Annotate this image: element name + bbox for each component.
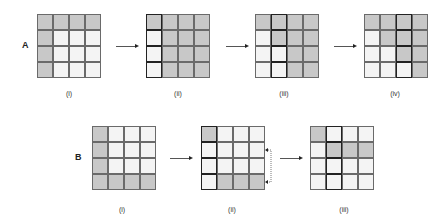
matrix-cell — [358, 142, 374, 158]
matrix-cell — [124, 158, 140, 174]
matrix-cell — [233, 174, 249, 190]
arrow-right-icon — [226, 46, 247, 47]
matrix-cell — [140, 142, 156, 158]
matrix-cell — [310, 142, 326, 158]
matrix-cell — [271, 62, 287, 78]
matrix-cell — [69, 62, 85, 78]
arrow-right-icon — [280, 158, 301, 159]
matrix-cell — [201, 142, 217, 158]
matrix-cell — [146, 46, 162, 62]
matrix-cell — [326, 174, 342, 190]
matrix-cell — [217, 142, 233, 158]
panel-caption: (iii) — [279, 90, 288, 97]
matrix-cell — [271, 14, 287, 30]
matrix-cell — [364, 30, 380, 46]
matrix-cell — [92, 126, 108, 142]
matrix-cell — [162, 46, 178, 62]
matrix-cell — [178, 14, 194, 30]
matrix-panel — [364, 14, 428, 78]
matrix-cell — [249, 126, 265, 142]
matrix-cell — [201, 158, 217, 174]
matrix-cell — [396, 46, 412, 62]
arrow-right-icon — [170, 158, 191, 159]
matrix-cell — [326, 158, 342, 174]
matrix-cell — [412, 30, 428, 46]
matrix-cell — [108, 158, 124, 174]
matrix-cell — [310, 126, 326, 142]
matrix-cell — [37, 30, 53, 46]
matrix-cell — [342, 126, 358, 142]
matrix-cell — [217, 158, 233, 174]
matrix-cell — [255, 14, 271, 30]
matrix-cell — [364, 14, 380, 30]
matrix-cell — [53, 14, 69, 30]
matrix-cell — [194, 62, 210, 78]
matrix-cell — [53, 46, 69, 62]
matrix-cell — [255, 62, 271, 78]
matrix-cell — [146, 30, 162, 46]
matrix-cell — [69, 30, 85, 46]
matrix-panel — [310, 126, 374, 190]
matrix-cell — [342, 142, 358, 158]
matrix-cell — [85, 14, 101, 30]
matrix-panel — [92, 126, 156, 190]
matrix-cell — [201, 174, 217, 190]
matrix-cell — [303, 14, 319, 30]
matrix-cell — [287, 46, 303, 62]
matrix-cell — [249, 158, 265, 174]
matrix-cell — [249, 142, 265, 158]
panel-caption: (iii) — [339, 206, 348, 213]
matrix-cell — [69, 14, 85, 30]
matrix-cell — [124, 174, 140, 190]
matrix-cell — [108, 142, 124, 158]
matrix-cell — [358, 174, 374, 190]
matrix-cell — [412, 14, 428, 30]
matrix-cell — [249, 174, 265, 190]
matrix-cell — [178, 30, 194, 46]
panel-caption: (ii) — [174, 90, 182, 97]
matrix-cell — [162, 62, 178, 78]
matrix-cell — [217, 126, 233, 142]
matrix-cell — [178, 46, 194, 62]
panel-caption: (ii) — [228, 206, 236, 213]
matrix-cell — [287, 62, 303, 78]
matrix-cell — [310, 174, 326, 190]
matrix-cell — [303, 30, 319, 46]
arrow-right-icon — [334, 46, 355, 47]
matrix-cell — [140, 174, 156, 190]
matrix-cell — [217, 174, 233, 190]
matrix-panel — [146, 14, 210, 78]
matrix-cell — [53, 62, 69, 78]
matrix-cell — [303, 46, 319, 62]
row-label: A — [22, 40, 29, 50]
matrix-cell — [108, 174, 124, 190]
row-label: B — [75, 152, 82, 162]
matrix-cell — [194, 14, 210, 30]
matrix-cell — [412, 62, 428, 78]
matrix-cell — [85, 46, 101, 62]
panel-caption: (i) — [66, 90, 72, 97]
matrix-cell — [178, 62, 194, 78]
matrix-cell — [380, 62, 396, 78]
matrix-cell — [53, 30, 69, 46]
matrix-cell — [37, 46, 53, 62]
matrix-cell — [380, 14, 396, 30]
matrix-cell — [255, 46, 271, 62]
matrix-cell — [396, 62, 412, 78]
panel-caption: (i) — [119, 206, 125, 213]
matrix-cell — [162, 30, 178, 46]
matrix-cell — [364, 62, 380, 78]
matrix-cell — [396, 14, 412, 30]
matrix-cell — [255, 30, 271, 46]
matrix-cell — [287, 30, 303, 46]
matrix-cell — [85, 62, 101, 78]
matrix-cell — [108, 126, 124, 142]
matrix-cell — [326, 126, 342, 142]
matrix-cell — [271, 30, 287, 46]
matrix-panel — [37, 14, 101, 78]
matrix-cell — [271, 46, 287, 62]
matrix-cell — [124, 126, 140, 142]
matrix-cell — [140, 126, 156, 142]
matrix-cell — [380, 46, 396, 62]
matrix-cell — [233, 126, 249, 142]
